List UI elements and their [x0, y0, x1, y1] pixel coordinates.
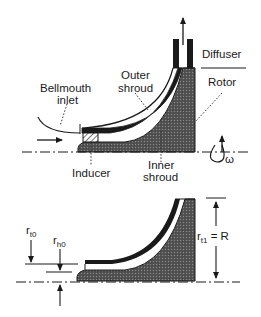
- leader-outer-shroud: [135, 93, 148, 110]
- label-outer-shroud-1: Outer: [121, 69, 150, 81]
- diffuser-vane-right: [187, 39, 193, 68]
- label-bellmouth-1: Bellmouth: [40, 82, 91, 94]
- label-diffuser: Diffuser: [202, 48, 242, 60]
- bottom-view: rt1 = R rt0 rh0: [16, 198, 240, 306]
- label-inducer: Inducer: [72, 167, 111, 179]
- centrifugal-compressor-diagram: Diffuser Rotor Outer shroud Bellmouth in…: [0, 0, 261, 317]
- label-inner-shroud-1: Inner: [148, 159, 174, 171]
- label-rotor: Rotor: [208, 76, 236, 88]
- label-rt0: rt0: [26, 224, 37, 239]
- label-bellmouth-2: inlet: [57, 94, 79, 106]
- leader-rotor: [196, 93, 222, 121]
- label-omega: ω: [225, 153, 234, 165]
- leader-bellmouth: [60, 104, 67, 126]
- label-rt1-equals-R: rt1 = R: [197, 230, 229, 245]
- inducer-blade: [83, 133, 98, 142]
- diffuser-vane-left: [173, 39, 179, 68]
- rotor-body-bottom: [77, 199, 195, 281]
- label-outer-shroud-2: shroud: [118, 82, 153, 94]
- label-rh0: rh0: [53, 234, 66, 249]
- label-inner-shroud-2: shroud: [143, 171, 178, 183]
- bellmouth-inlet-curve: [38, 117, 80, 133]
- top-view: Diffuser Rotor Outer shroud Bellmouth in…: [22, 18, 250, 183]
